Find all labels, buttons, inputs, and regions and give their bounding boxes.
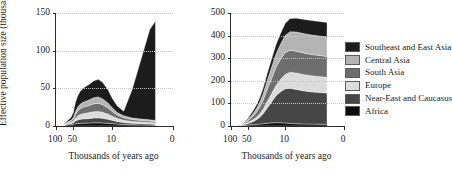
x-axis-tick-mark (56, 126, 57, 130)
legend-item: Central Asia (345, 54, 443, 67)
legend-swatch-icon (345, 81, 360, 91)
y-axis-tick-label: 0 (45, 121, 50, 131)
legend-label: Central Asia (365, 56, 410, 65)
y-axis-tick-label: 150 (36, 8, 50, 18)
y-axis-tick-label: 100 (211, 99, 225, 109)
area-series-near-east-and-caucasus (231, 88, 327, 126)
legend-label: Africa (365, 107, 388, 116)
x-axis-tick-mark (248, 126, 249, 130)
legend-label: Southeast and East Asia (365, 43, 451, 52)
gridline (231, 13, 344, 14)
x-axis-tick-label: 50 (242, 135, 252, 145)
y-axis-tick-mark (53, 13, 57, 14)
y-axis-tick-label: 50 (41, 84, 51, 94)
legend-item: Near-East and Caucasus (345, 92, 443, 105)
legend-swatch-icon (345, 42, 360, 52)
x-axis-tick-mark (231, 126, 232, 130)
x-axis-tick-label: 100 (48, 135, 62, 145)
y-axis-tick-mark (228, 36, 232, 37)
y-axis-tick-label: 300 (211, 53, 225, 63)
y-axis-tick-mark (228, 81, 232, 82)
x-axis-tick-label: 10 (280, 135, 290, 145)
x-axis-tick-label: 0 (341, 135, 346, 145)
x-axis-tick-label: 10 (106, 135, 116, 145)
gridline (56, 51, 173, 52)
y-axis-tick-label: 0 (220, 121, 225, 131)
gridline (56, 13, 173, 14)
plot-canvas-left (56, 13, 173, 126)
gridline (231, 58, 344, 59)
x-axis-tick-label: 100 (223, 135, 237, 145)
plot-canvas-right (231, 13, 344, 126)
chart-legend: Southeast and East AsiaCentral AsiaSouth… (345, 41, 443, 118)
x-axis-tick-mark (173, 126, 174, 130)
legend-item: South Asia (345, 67, 443, 80)
y-axis-tick-mark (53, 88, 57, 89)
gridline (56, 88, 173, 89)
y-axis-tick-label: 400 (211, 31, 225, 41)
y-axis-title-left: Effective population size (thousands) (0, 13, 8, 126)
plot-area-right (230, 13, 344, 127)
x-axis-title-left: Thousands of years ago (55, 151, 172, 161)
gridline (231, 103, 344, 104)
chart-panel-left: Effective population size (thousands) Th… (0, 0, 190, 179)
legend-label: Near-East and Caucasus (365, 94, 452, 103)
legend-item: Southeast and East Asia (345, 41, 443, 54)
y-axis-tick-mark (228, 58, 232, 59)
legend-swatch-icon (345, 106, 360, 116)
x-axis-tick-label: 0 (170, 135, 175, 145)
y-axis-tick-mark (228, 13, 232, 14)
legend-item: Africa (345, 105, 443, 118)
gridline (231, 81, 344, 82)
x-axis-tick-mark (73, 126, 74, 130)
y-axis-tick-label: 200 (211, 76, 225, 86)
y-axis-tick-mark (53, 51, 57, 52)
x-axis-tick-mark (344, 126, 345, 130)
x-axis-tick-mark (285, 126, 286, 130)
gridline (231, 36, 344, 37)
legend-swatch-icon (345, 94, 360, 104)
plot-area-left (55, 13, 173, 127)
y-axis-tick-label: 100 (36, 46, 50, 56)
x-axis-tick-mark (112, 126, 113, 130)
y-axis-tick-mark (228, 103, 232, 104)
legend-label: Europe (365, 81, 391, 90)
legend-item: Europe (345, 79, 443, 92)
y-axis-tick-label: 500 (211, 8, 225, 18)
legend-swatch-icon (345, 55, 360, 65)
legend-label: South Asia (365, 68, 404, 77)
chart-panel-right: Thousands of years ago 01002003004005001… (190, 0, 340, 179)
legend-swatch-icon (345, 68, 360, 78)
x-axis-title-right: Thousands of years ago (230, 151, 343, 161)
x-axis-tick-label: 50 (68, 135, 78, 145)
